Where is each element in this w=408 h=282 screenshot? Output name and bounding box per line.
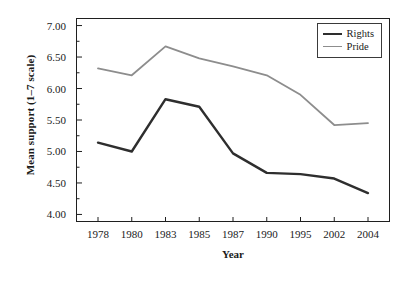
y-axis-tick-label: 4.00 <box>26 209 66 220</box>
y-axis-tick-label: 5.00 <box>26 146 66 157</box>
x-axis-tick-label: 1987 <box>222 228 244 240</box>
y-axis-tick-label: 6.00 <box>26 84 66 95</box>
x-axis-tick-label: 2002 <box>323 228 345 240</box>
y-axis-tick-labels: 4.004.505.005.506.006.507.00 <box>26 18 66 224</box>
legend: Rights Pride <box>317 23 382 58</box>
x-axis-tick-label: 1990 <box>256 228 278 240</box>
x-axis-tick-labels: 197819801983198519871990199520022004 <box>76 228 390 244</box>
x-axis-tick-label: 2004 <box>357 228 379 240</box>
legend-line-icon-pride <box>323 46 342 47</box>
x-axis-tick-label: 1980 <box>121 228 143 240</box>
x-axis-tick-label: 1983 <box>155 228 177 240</box>
plot-area: Rights Pride <box>76 18 390 222</box>
figure: Mean support (1–7 scale) 4.004.505.005.5… <box>0 0 408 282</box>
legend-label-pride: Pride <box>347 41 369 53</box>
y-axis-tick-label: 5.50 <box>26 115 66 126</box>
legend-item-pride: Pride <box>323 40 374 53</box>
legend-label-rights: Rights <box>347 28 374 40</box>
data-series-group <box>98 46 368 193</box>
x-axis-title: Year <box>76 248 390 261</box>
y-axis-tick-label: 4.50 <box>26 178 66 189</box>
x-axis-tick-label: 1985 <box>188 228 210 240</box>
legend-item-rights: Rights <box>323 27 374 40</box>
y-axis-tick-label: 6.50 <box>26 52 66 63</box>
y-axis-tick-label: 7.00 <box>26 21 66 32</box>
x-axis-tick-label: 1995 <box>290 228 312 240</box>
legend-line-icon-rights <box>323 33 342 35</box>
x-axis-tick-label: 1978 <box>87 228 109 240</box>
